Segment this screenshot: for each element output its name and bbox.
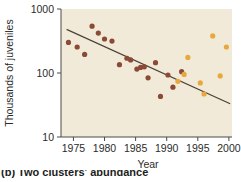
data-point <box>185 55 190 60</box>
y-axis-title: Thousands of juveniles <box>3 19 15 126</box>
data-point <box>201 91 206 96</box>
data-point <box>170 85 175 90</box>
data-point <box>198 80 203 85</box>
y-tick-label: 100 <box>36 67 54 79</box>
data-point <box>102 36 107 41</box>
data-point <box>117 62 122 67</box>
data-point <box>96 31 101 36</box>
data-point <box>182 72 187 77</box>
plot-area-background <box>61 9 232 137</box>
x-tick-label: 1990 <box>155 142 179 154</box>
data-point <box>224 44 229 49</box>
x-axis-title: Year <box>137 158 159 170</box>
data-point <box>66 40 71 45</box>
y-tick-label: 10 <box>42 131 54 143</box>
x-axis-ticks: 197519801985199019952000 <box>62 137 241 154</box>
data-point <box>89 24 94 29</box>
data-point <box>128 57 133 62</box>
x-tick-label: 1980 <box>93 142 117 154</box>
data-point <box>218 73 223 78</box>
data-point <box>109 39 114 44</box>
x-tick-label: 1985 <box>124 142 148 154</box>
x-tick-label: 1995 <box>186 142 210 154</box>
y-axis-ticks: 101001000 <box>31 3 61 143</box>
x-tick-label: 1975 <box>62 142 86 154</box>
data-point <box>145 75 150 80</box>
x-tick-label: 2000 <box>217 142 241 154</box>
caption-strip: (b) Two clusters' abundance <box>0 170 241 182</box>
data-point <box>75 44 80 49</box>
data-point <box>142 64 147 69</box>
figure-panel: 101001000 197519801985199019952000 Thous… <box>0 0 241 182</box>
scatter-chart: 101001000 197519801985199019952000 Thous… <box>0 0 241 182</box>
data-point <box>210 33 215 38</box>
y-tick-label: 1000 <box>31 3 55 15</box>
data-point <box>158 94 163 99</box>
data-point <box>82 52 87 57</box>
data-point <box>175 79 180 84</box>
data-point <box>165 72 170 77</box>
figure-caption: (b) Two clusters' abundance <box>1 170 148 178</box>
data-point <box>153 60 158 65</box>
